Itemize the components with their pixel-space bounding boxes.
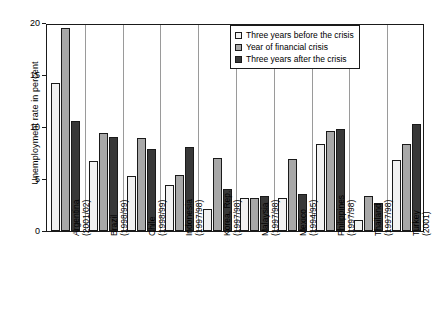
y-tick-mark [42, 127, 46, 128]
x-axis-label: Philippines(1997/98) [337, 160, 353, 236]
bar [250, 198, 259, 231]
x-axis-label: Thailand(1997/98) [374, 160, 390, 236]
legend-label: Three years before the crisis [246, 29, 354, 41]
bar [51, 83, 60, 231]
chart-legend: Three years before the crisis Year of fi… [230, 25, 360, 69]
y-tick-mark [42, 23, 46, 24]
legend-label: Year of financial crisis [246, 41, 328, 53]
y-tick-label: 10 [20, 121, 40, 133]
legend-item: Three years before the crisis [235, 29, 354, 41]
x-axis-label: Brazil(1998/99) [110, 160, 126, 236]
legend-label: Three years after the crisis [246, 53, 347, 65]
bar [364, 196, 373, 231]
y-tick-label: 20 [20, 17, 40, 29]
legend-swatch-after-icon [235, 56, 242, 63]
unemployment-bar-chart: Unemployment rate in percent 05101520 Ar… [0, 0, 435, 315]
x-axis-label: Turkey(2001) [412, 160, 428, 236]
bar [137, 138, 146, 231]
y-tick-mark [42, 231, 46, 232]
bar [326, 131, 335, 231]
bar [175, 175, 184, 231]
legend-item: Three years after the crisis [235, 53, 354, 65]
x-axis-label: Mexico(1994/95) [299, 160, 315, 236]
x-axis-label: Korea, Rep.(1997/98) [223, 160, 239, 236]
y-tick-mark [42, 179, 46, 180]
y-tick-label: 0 [20, 225, 40, 237]
bar [213, 158, 222, 231]
x-axis-label: Chile(1998/99) [148, 160, 164, 236]
x-axis-label: Argentina(2001/02) [72, 160, 88, 236]
x-axis-labels: Argentina(2001/02)Brazil(1998/99)Chile(1… [46, 236, 424, 314]
y-tick-label: 15 [20, 69, 40, 81]
legend-item: Year of financial crisis [235, 41, 354, 53]
y-tick-label: 5 [20, 173, 40, 185]
bar [99, 133, 108, 231]
x-axis-label: Malaysia(1997/98) [261, 160, 277, 236]
legend-swatch-year-icon [235, 44, 242, 51]
bar [402, 144, 411, 231]
x-axis-label: Indonesia(1997/98) [185, 160, 201, 236]
y-tick-mark [42, 75, 46, 76]
legend-swatch-before-icon [235, 32, 242, 39]
bar [61, 28, 70, 231]
bar [288, 159, 297, 231]
